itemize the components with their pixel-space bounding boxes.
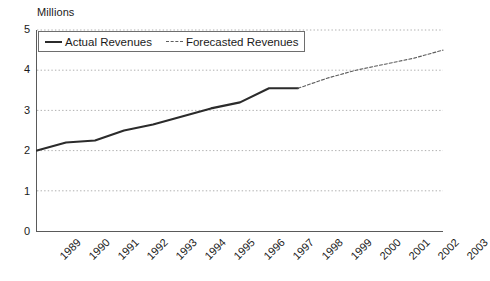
legend-item[interactable]: Forecasted Revenues bbox=[166, 36, 299, 48]
y-tick-label: 5 bbox=[8, 24, 30, 35]
y-tick-label: 4 bbox=[8, 64, 30, 75]
x-tick-label: 1992 bbox=[144, 236, 170, 262]
plot-area bbox=[36, 30, 443, 232]
series-line bbox=[37, 88, 298, 150]
x-tick-label: 1994 bbox=[203, 236, 229, 262]
legend-item-label: Forecasted Revenues bbox=[186, 36, 299, 48]
series-line bbox=[298, 50, 443, 88]
x-tick-label: 1993 bbox=[173, 236, 199, 262]
x-tick-label: 1995 bbox=[232, 236, 258, 262]
y-axis-title: Millions bbox=[37, 6, 74, 18]
legend-solid-line-icon bbox=[45, 41, 62, 43]
chart-legend: Actual RevenuesForecasted Revenues bbox=[38, 31, 305, 52]
x-tick-label: 2002 bbox=[435, 236, 461, 262]
data-series-layer bbox=[37, 30, 443, 231]
x-tick-label: 1998 bbox=[319, 236, 345, 262]
y-tick-label: 3 bbox=[8, 105, 30, 116]
x-tick-label: 1997 bbox=[290, 236, 316, 262]
x-tick-label: 1991 bbox=[115, 236, 141, 262]
x-tick-label: 1990 bbox=[86, 236, 112, 262]
legend-item-label: Actual Revenues bbox=[65, 36, 152, 48]
x-tick-label: 2000 bbox=[377, 236, 403, 262]
y-tick-label: 2 bbox=[8, 145, 30, 156]
y-tick-label: 0 bbox=[8, 226, 30, 237]
x-tick-label: 2001 bbox=[406, 236, 432, 262]
legend-dashed-line-icon bbox=[166, 41, 183, 42]
y-tick-label: 1 bbox=[8, 186, 30, 197]
x-tick-label: 1989 bbox=[57, 236, 83, 262]
x-tick-label: 1996 bbox=[261, 236, 287, 262]
legend-item[interactable]: Actual Revenues bbox=[45, 36, 152, 48]
x-tick-label: 2003 bbox=[464, 236, 490, 262]
x-tick-label: 1999 bbox=[348, 236, 374, 262]
